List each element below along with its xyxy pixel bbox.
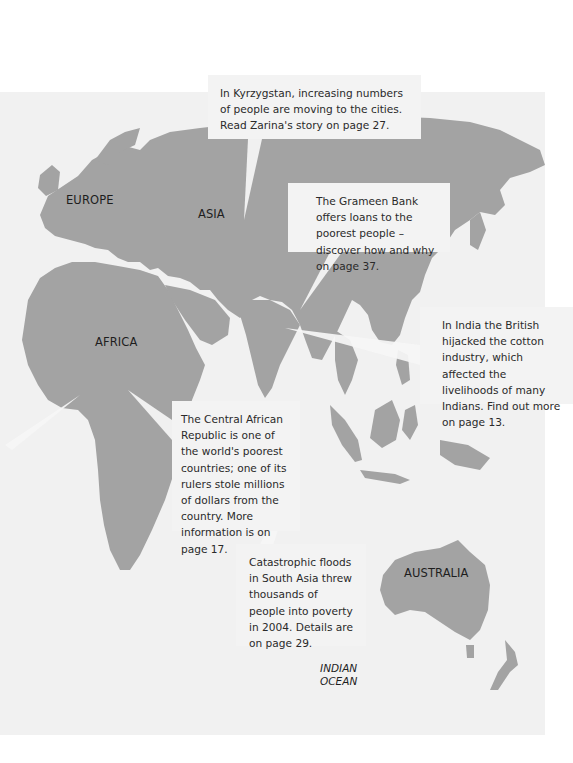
callout-car: The Central African Republic is one of t… — [172, 401, 300, 531]
label-indian-ocean: INDIAN OCEAN — [320, 662, 357, 688]
label-australia: AUSTRALIA — [404, 566, 469, 580]
ocean-label-line1: INDIAN — [320, 662, 357, 675]
india-landmass — [240, 300, 300, 398]
australia-landmass — [380, 540, 490, 640]
new-zealand — [490, 640, 518, 690]
java — [360, 470, 410, 484]
callout-grameen: The Grameen Bank offers loans to the poo… — [288, 183, 450, 252]
sumatra — [330, 405, 362, 462]
label-europe: EUROPE — [66, 193, 114, 207]
callout-pointer-west-africa — [5, 395, 80, 450]
callout-india: In India the British hijacked the cotton… — [420, 307, 573, 404]
new-guinea — [440, 440, 490, 470]
label-asia: ASIA — [198, 207, 225, 221]
tasmania — [466, 645, 474, 658]
borneo — [370, 400, 400, 448]
callout-floods: Catastrophic floods in South Asia threw … — [236, 544, 366, 646]
label-africa: AFRICA — [95, 335, 137, 349]
sulawesi — [402, 405, 418, 440]
ocean-label-line2: OCEAN — [320, 675, 357, 688]
callout-kyrzygstan: In Kyrzygstan, increasing numbers of peo… — [208, 75, 421, 139]
